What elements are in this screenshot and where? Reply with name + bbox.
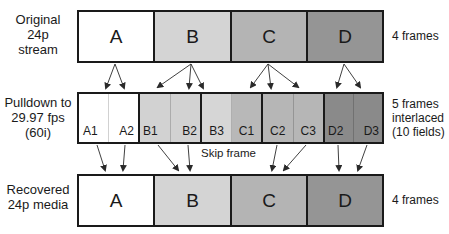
pulldown-arrows [0,0,449,234]
